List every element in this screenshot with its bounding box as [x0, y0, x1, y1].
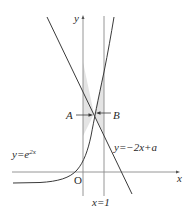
- y-axis-label: y: [73, 12, 79, 24]
- curve-label-base: y=e: [11, 148, 29, 160]
- region-a-shade: [83, 62, 94, 136]
- y-axis-arrow-icon: [82, 15, 85, 19]
- curve-label: y=e2x: [11, 148, 37, 160]
- x-equals-1-label: x=1: [91, 196, 110, 208]
- line-y-neg2x-plus-a: [47, 17, 132, 194]
- region-a-label: A: [65, 109, 73, 121]
- graph-figure: y x O A B y=e2x y=−2x+a x=1: [0, 0, 189, 219]
- x-axis-label: x: [176, 172, 182, 184]
- line-label: y=−2x+a: [113, 141, 158, 153]
- curve-label-exponent: 2x: [29, 148, 37, 156]
- region-b-label: B: [113, 109, 120, 121]
- origin-label: O: [74, 174, 82, 186]
